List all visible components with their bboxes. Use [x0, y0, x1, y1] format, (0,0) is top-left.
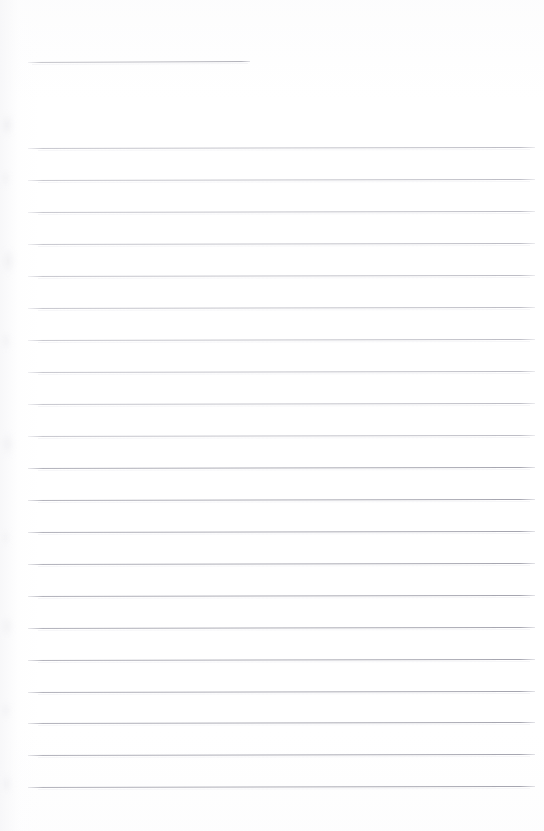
writing-rule-13 [28, 531, 535, 533]
margin-smudge-8 [0, 700, 12, 721]
writing-rule-9 [28, 403, 535, 405]
writing-rule-20 [28, 754, 535, 756]
margin-smudge-1 [0, 112, 14, 138]
margin-smudge-5 [0, 430, 15, 458]
writing-rule-7 [28, 339, 535, 341]
margin-smudge-2 [0, 168, 11, 188]
left-margin-smudges [0, 0, 26, 831]
writing-rule-16 [28, 627, 535, 629]
margin-smudge-6 [0, 528, 11, 547]
writing-rule-8 [28, 371, 535, 373]
writing-rule-17 [28, 659, 535, 661]
notepaper-page [0, 0, 544, 831]
writing-rule-14 [28, 563, 535, 565]
writing-rule-10 [28, 435, 535, 437]
writing-rule-6 [28, 307, 535, 309]
writing-rule-1 [28, 147, 535, 149]
paper-texture-overlay [0, 0, 544, 831]
writing-rule-12 [28, 499, 535, 501]
writing-rule-15 [28, 595, 535, 597]
margin-smudge-7 [0, 614, 14, 639]
margin-smudge-3 [0, 246, 16, 276]
writing-rule-3 [28, 211, 535, 213]
writing-rule-4 [28, 243, 535, 245]
bottom-blank-margin [0, 787, 544, 831]
writing-rule-5 [28, 275, 535, 277]
writing-rule-11 [28, 467, 535, 469]
writing-rule-18 [28, 691, 535, 693]
margin-smudge-4 [0, 330, 12, 352]
writing-rule-19 [28, 722, 535, 724]
writing-rule-2 [28, 179, 535, 181]
title-entry-rule [28, 61, 250, 63]
